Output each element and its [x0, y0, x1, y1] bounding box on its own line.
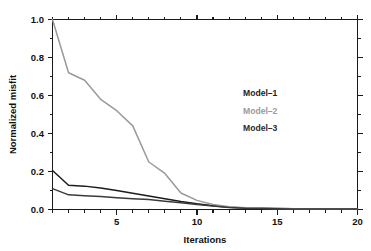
x-tick-label: 5	[114, 216, 120, 227]
x-tick-label: 20	[352, 216, 363, 227]
y-tick-label: 0.8	[31, 52, 44, 63]
chart-figure: 51015200.00.20.40.60.81.0 Iterations Nor…	[0, 0, 371, 251]
legend-item-2: Model–2	[243, 106, 278, 116]
y-tick-label: 0.6	[31, 90, 44, 101]
x-axis-title: Iterations	[184, 234, 227, 245]
y-tick-label: 0.0	[31, 204, 44, 215]
chart-background	[0, 0, 371, 251]
y-tick-label: 0.2	[31, 166, 44, 177]
y-tick-label: 0.4	[31, 128, 45, 139]
y-axis-title: Normalized misfit	[7, 74, 18, 154]
legend-item-3: Model–3	[243, 123, 278, 133]
legend-item-1: Model–1	[243, 88, 278, 98]
legend: Model–1Model–2Model–3	[243, 88, 278, 133]
line-chart: 51015200.00.20.40.60.81.0 Iterations Nor…	[0, 0, 371, 251]
x-tick-label: 10	[192, 216, 203, 227]
y-tick-label: 1.0	[31, 14, 44, 25]
x-tick-label: 15	[272, 216, 283, 227]
